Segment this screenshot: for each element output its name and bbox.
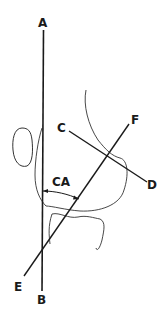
label-b: B [37,294,46,306]
axis-line-e-f [24,124,129,276]
angle-arrowhead-left [43,189,48,193]
label-a: A [38,17,47,29]
patella-outline [13,128,33,166]
label-f: F [131,114,139,126]
knee-axes-diagram: A B C D E F CA [0,0,166,317]
axis-line-c-d [69,131,147,182]
axis-line-a-b [42,30,44,291]
label-c: C [57,122,66,134]
label-angle-ca: CA [52,176,70,188]
diagram-canvas [0,0,166,317]
tibia-outline [49,214,104,250]
label-d: D [147,179,157,191]
label-e: E [14,281,22,293]
femur-condyle-outline [46,90,127,211]
femur-outline-left [35,128,46,206]
